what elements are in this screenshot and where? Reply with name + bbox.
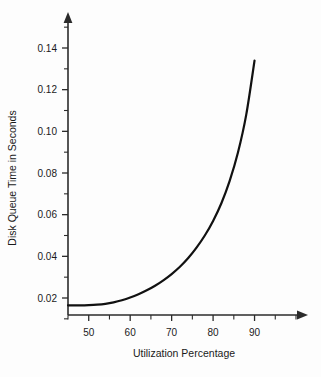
- y-tick-label: 0.10: [38, 126, 58, 137]
- y-axis-title: Disk Queue Time in Seconds: [6, 110, 18, 245]
- y-axis-tick-labels: 0.020.040.060.080.100.120.14: [38, 43, 58, 304]
- y-tick-label: 0.12: [38, 84, 58, 95]
- chart-figure: 0.020.040.060.080.100.120.14 5060708090 …: [0, 0, 321, 377]
- y-tick-label: 0.08: [38, 168, 58, 179]
- arrow-right-icon: [297, 311, 308, 320]
- x-tick-label: 50: [83, 327, 95, 338]
- x-tick-label: 90: [249, 327, 261, 338]
- x-tick-label: 70: [166, 327, 178, 338]
- x-axis-tick-labels: 5060708090: [83, 327, 260, 338]
- y-tick-label: 0.06: [38, 209, 58, 220]
- y-tick-label: 0.02: [38, 293, 58, 304]
- data-series-curve: [68, 61, 255, 306]
- y-tick-label: 0.04: [38, 251, 58, 262]
- arrow-up-icon: [64, 12, 73, 23]
- x-tick-label: 60: [125, 327, 137, 338]
- x-tick-label: 80: [208, 327, 220, 338]
- x-axis-title: Utilization Percentage: [133, 347, 235, 359]
- y-tick-label: 0.14: [38, 43, 58, 54]
- chart-plot-area: 0.020.040.060.080.100.120.14 5060708090 …: [0, 0, 321, 377]
- x-axis-ticks: [68, 315, 296, 321]
- y-axis-ticks: [62, 27, 68, 319]
